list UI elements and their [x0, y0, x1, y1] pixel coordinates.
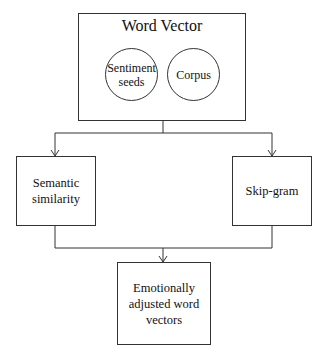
corpus-label: Corpus	[176, 68, 211, 82]
corpus-circle: Corpus	[167, 48, 220, 101]
emotionally-adjusted-label: Emotionally adjusted word vectors	[118, 280, 210, 328]
sentiment-seeds-label: Sentiment seeds	[106, 61, 157, 89]
flowchart-canvas: Word Vector Sentiment seeds Corpus Seman…	[0, 0, 325, 360]
skip-gram-box: Skip-gram	[232, 156, 312, 226]
semantic-similarity-label: Semantic similarity	[17, 175, 95, 207]
word-vector-title: Word Vector	[78, 17, 246, 35]
skip-gram-label: Skip-gram	[246, 183, 299, 199]
semantic-similarity-box: Semantic similarity	[16, 156, 96, 226]
emotionally-adjusted-box: Emotionally adjusted word vectors	[117, 262, 211, 345]
sentiment-seeds-circle: Sentiment seeds	[105, 48, 158, 101]
